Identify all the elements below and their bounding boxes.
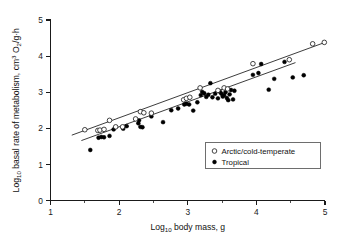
data-point: [107, 118, 112, 123]
regression-lines: [72, 42, 325, 140]
data-point: [102, 127, 107, 132]
data-point: [322, 40, 327, 45]
data-point: [216, 88, 221, 93]
data-point: [272, 77, 276, 81]
axis-ticks: [46, 20, 325, 205]
legend: Arctic/cold-temperateTropical: [206, 143, 321, 169]
x-tick-label-4: 4: [254, 207, 259, 217]
data-point: [283, 60, 287, 64]
x-tick-label-3: 3: [185, 207, 190, 217]
legend-label: Arctic/cold-temperate: [222, 147, 296, 156]
data-points: [83, 40, 327, 152]
legend-marker-filled-circle-icon: [213, 160, 217, 164]
data-point: [231, 97, 235, 101]
data-point: [256, 71, 260, 75]
y-tick-label-3: 3: [38, 87, 43, 97]
x-axis-title: Log10 body mass, g: [150, 222, 225, 233]
data-point: [149, 111, 154, 116]
y-tick-label-2: 2: [38, 123, 43, 133]
data-point: [216, 96, 220, 100]
y-tick-label-1: 1: [38, 160, 43, 170]
legend-marker-open-circle-icon: [212, 149, 217, 154]
x-tick-label-2: 2: [117, 207, 122, 217]
data-point: [251, 61, 256, 66]
data-point: [88, 148, 92, 152]
x-tick-label-1: 1: [48, 207, 53, 217]
y-tick-label-4: 4: [38, 51, 43, 61]
data-point: [287, 57, 292, 62]
data-point: [302, 73, 306, 77]
data-point: [133, 117, 138, 122]
y-tick-label-5: 5: [38, 15, 43, 25]
data-point: [188, 95, 193, 100]
axes: [51, 20, 326, 201]
data-point: [113, 125, 118, 130]
data-point: [169, 108, 173, 112]
data-point: [142, 110, 147, 115]
data-point: [259, 62, 263, 66]
data-point: [198, 86, 203, 91]
data-point: [108, 134, 112, 138]
x-tick-label-5: 5: [323, 207, 328, 217]
data-point: [202, 91, 206, 95]
data-point: [125, 124, 129, 128]
data-point: [291, 75, 295, 79]
y-axis-title: Log10 basal rate of metabolism, cm3 O2/g…: [10, 28, 22, 192]
axis-spines: [51, 20, 326, 201]
data-point: [120, 125, 125, 130]
data-point: [225, 87, 230, 92]
data-point: [310, 42, 315, 47]
data-point: [191, 109, 195, 113]
data-point: [206, 93, 210, 97]
data-point: [195, 100, 199, 104]
legend-label: Tropical: [222, 158, 250, 167]
figure-container: 01234512345 Arctic/cold-temperateTropica…: [0, 0, 343, 240]
data-point: [187, 103, 191, 107]
data-point: [226, 98, 230, 102]
data-point: [141, 125, 145, 129]
data-point: [211, 95, 215, 99]
data-point: [228, 92, 232, 96]
data-point: [232, 89, 236, 93]
data-point: [267, 88, 271, 92]
data-point: [102, 135, 106, 139]
data-point: [83, 127, 88, 132]
scatter-plot: 01234512345 Arctic/cold-temperateTropica…: [0, 0, 343, 240]
axis-tick-labels: 01234512345: [38, 15, 327, 217]
data-point: [208, 81, 212, 85]
y-tick-label-0: 0: [38, 196, 43, 206]
data-point: [251, 73, 255, 77]
data-point: [161, 120, 165, 124]
data-point: [176, 106, 180, 110]
